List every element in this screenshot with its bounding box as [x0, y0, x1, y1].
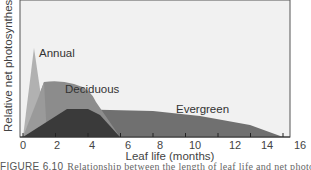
deciduous-label: Deciduous	[65, 83, 120, 95]
figure-number: FIGURE 6.10	[0, 161, 63, 170]
caption-text: Relationship between the length of leaf …	[67, 161, 311, 170]
x-tick-label: 0	[20, 139, 26, 151]
x-tick-label: 14	[261, 139, 273, 151]
chart: 0 2 4 6 8 10 12 14 16 Leaf life (months)…	[0, 0, 311, 170]
annual-label: Annual	[39, 47, 75, 59]
figure-caption: FIGURE 6.10Relationship between the leng…	[0, 161, 311, 170]
x-tick-label: 16	[294, 139, 306, 151]
x-tick-label: 2	[54, 139, 60, 151]
y-axis-title: Relative net photosynthesis	[2, 2, 16, 132]
evergreen-label: Evergreen	[176, 103, 229, 115]
x-tick-label: 4	[89, 139, 95, 151]
x-tick-label: 12	[229, 139, 241, 151]
